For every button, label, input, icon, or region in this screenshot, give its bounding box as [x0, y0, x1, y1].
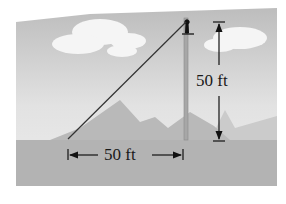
ground: [16, 140, 277, 186]
vertical-dimension-label: 50 ft: [196, 72, 228, 89]
diagram: 50 ft 50 ft: [0, 0, 286, 204]
horizontal-dimension-label: 50 ft: [104, 146, 136, 163]
